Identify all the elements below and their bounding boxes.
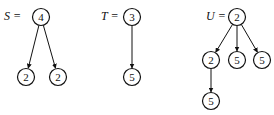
node-value: 5 <box>234 54 240 66</box>
tree-node: 2 <box>50 69 67 86</box>
edge-arrow <box>241 24 257 52</box>
tree-label-u: U = <box>206 9 226 23</box>
tree-node: 2 <box>18 69 35 86</box>
tree-node: 5 <box>229 52 246 69</box>
edge-arrow <box>28 25 39 68</box>
nodes: 4223522555 <box>18 9 271 110</box>
node-value: 2 <box>234 11 240 23</box>
node-value: 4 <box>38 11 44 23</box>
node-value: 5 <box>129 71 135 83</box>
edge-arrow <box>43 25 55 68</box>
node-value: 2 <box>208 54 214 66</box>
tree-node: 5 <box>124 69 141 86</box>
tree-node: 5 <box>203 93 220 110</box>
tree-label-s: S = <box>4 9 21 23</box>
tree-node: 4 <box>33 9 50 26</box>
node-value: 3 <box>129 11 135 23</box>
tree-node: 3 <box>124 9 141 26</box>
node-value: 5 <box>208 95 214 107</box>
tree-node: 5 <box>254 52 271 69</box>
tree-node: 2 <box>229 9 246 26</box>
edge-arrow <box>216 24 233 52</box>
node-value: 2 <box>23 71 29 83</box>
tree-label-t: T = <box>101 9 119 23</box>
tree-node: 2 <box>203 52 220 69</box>
node-value: 5 <box>259 54 265 66</box>
node-value: 2 <box>55 71 61 83</box>
tree-diagram: 4223522555 S =T =U = <box>0 0 274 115</box>
